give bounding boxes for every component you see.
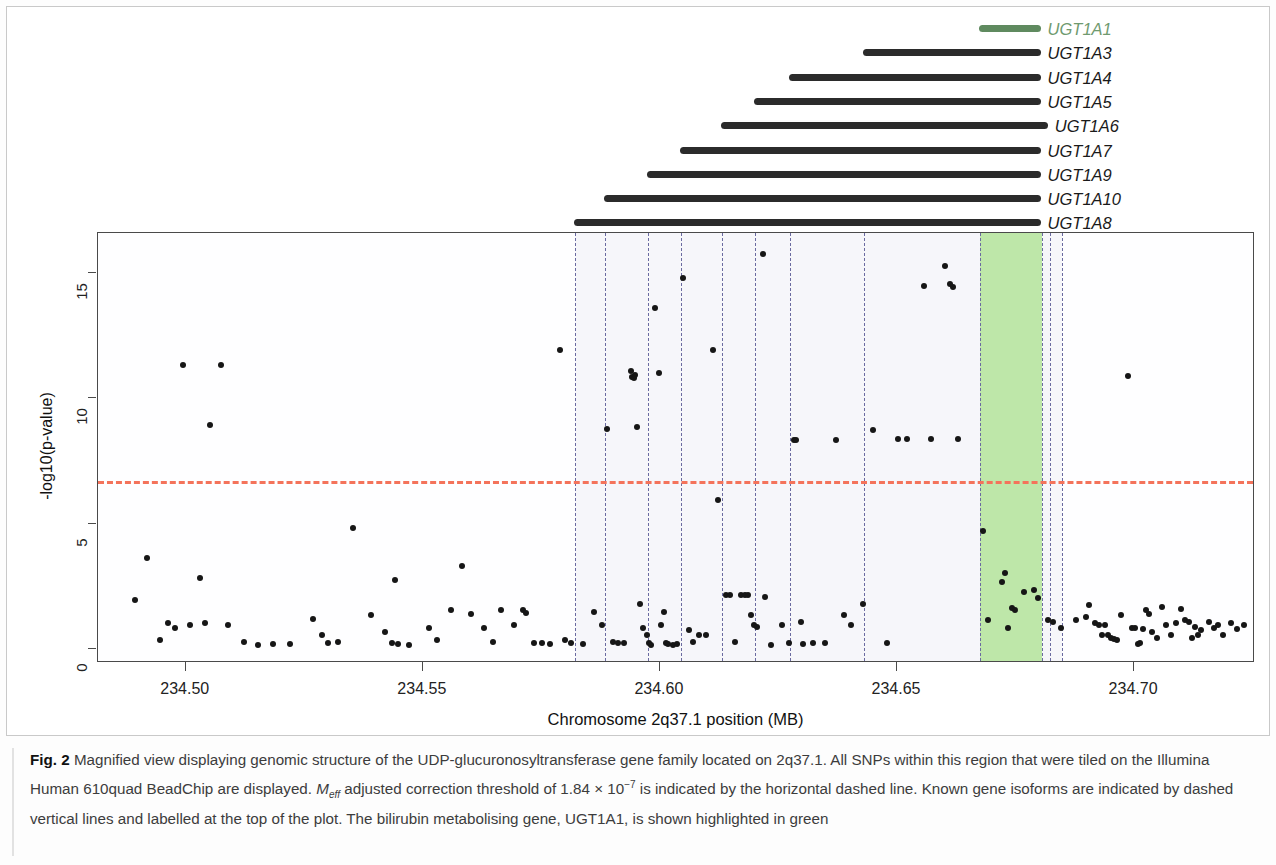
x-axis-label: Chromosome 2q37.1 position (MB): [548, 710, 804, 729]
gene-label-ugt1a3: UGT1A3: [1048, 42, 1112, 64]
snp-point: [531, 640, 537, 646]
gene-bar-ugt1a6: [721, 122, 1048, 129]
meff-symbol: M: [316, 780, 329, 797]
snp-point: [310, 616, 316, 622]
snp-point: [368, 612, 374, 618]
snp-point: [1102, 622, 1108, 628]
gene-track: UGT1A1UGT1A3UGT1A4UGT1A5UGT1A6UGT1A7UGT1…: [0, 0, 1276, 232]
snp-point: [1050, 619, 1056, 625]
snp-point: [1178, 606, 1184, 612]
y-axis-label: -log10(p-value): [38, 361, 56, 531]
snp-point: [1073, 617, 1079, 623]
snp-point: [1186, 619, 1192, 625]
snp-point: [786, 640, 792, 646]
snp-point: [1220, 632, 1226, 638]
snp-point: [745, 592, 751, 598]
gene-boundary-line-2: [648, 233, 649, 661]
gene-row-ugt1a3: UGT1A3: [0, 42, 1276, 64]
gene-label-ugt1a5: UGT1A5: [1048, 91, 1112, 113]
gene-row-ugt1a6: UGT1A6: [0, 115, 1276, 137]
snp-point: [207, 422, 213, 428]
x-tick: [896, 662, 897, 671]
snp-point: [1215, 622, 1221, 628]
gene-row-ugt1a9: UGT1A9: [0, 164, 1276, 186]
gene-label-ugt1a1: UGT1A1: [1048, 18, 1112, 40]
gene-row-ugt1a5: UGT1A5: [0, 91, 1276, 113]
gene-boundary-line-7: [864, 233, 865, 661]
snp-point: [325, 640, 331, 646]
snp-point: [270, 641, 276, 647]
snp-point: [1159, 604, 1165, 610]
gene-label-ugt1a10: UGT1A10: [1048, 188, 1121, 210]
gene-boundary-line-5: [755, 233, 756, 661]
gene-bar-ugt1a10: [604, 195, 1040, 202]
snp-point: [798, 619, 804, 625]
gene-bar-ugt1a3: [863, 49, 1041, 56]
snp-point: [884, 640, 890, 646]
gene-boundary-line-0: [575, 233, 576, 661]
snp-point: [468, 611, 474, 617]
snp-point: [319, 632, 325, 638]
snp-point: [632, 372, 638, 378]
snp-point: [1125, 373, 1131, 379]
gene-boundary-line-3: [681, 233, 682, 661]
snp-point: [1002, 570, 1008, 576]
snp-point: [674, 641, 680, 647]
gene-bar-ugt1a1: [979, 25, 1041, 32]
snp-point: [180, 362, 186, 368]
gene-label-ugt1a7: UGT1A7: [1048, 140, 1112, 162]
gene-bar-ugt1a4: [789, 74, 1040, 81]
snp-point: [557, 347, 563, 353]
snp-point: [426, 625, 432, 631]
manhattan-plot-panel: [97, 232, 1254, 662]
x-tick: [659, 662, 660, 671]
snp-point: [860, 601, 866, 607]
threshold-exponent: −7: [624, 779, 635, 790]
gene-boundary-line-1: [605, 233, 606, 661]
snp-point: [382, 629, 388, 635]
snp-point: [1154, 635, 1160, 641]
snp-point: [197, 575, 203, 581]
snp-point: [539, 640, 545, 646]
gene-label-ugt1a9: UGT1A9: [1048, 164, 1112, 186]
y-tick-label: 15: [73, 272, 90, 312]
snp-point: [1146, 611, 1152, 617]
snp-point: [157, 637, 163, 643]
snp-point: [335, 639, 341, 645]
snp-point: [822, 640, 828, 646]
gene-bar-ugt1a7: [680, 147, 1040, 154]
x-tick-label: 234.60: [634, 680, 683, 698]
snp-point: [848, 622, 854, 628]
snp-point: [661, 609, 667, 615]
figure-root: UGT1A1UGT1A3UGT1A4UGT1A5UGT1A6UGT1A7UGT1…: [0, 0, 1276, 865]
snp-point: [1234, 626, 1240, 632]
snp-point: [895, 436, 901, 442]
gene-boundary-line-6: [790, 233, 791, 661]
snp-point: [1021, 589, 1027, 595]
snp-point: [1012, 607, 1018, 613]
snp-point: [511, 622, 517, 628]
gene-bar-ugt1a5: [754, 98, 1041, 105]
snp-point: [1198, 627, 1204, 633]
snp-point: [459, 563, 465, 569]
y-tick-label: 0: [73, 648, 90, 688]
snp-point: [1083, 614, 1089, 620]
snp-point: [1114, 637, 1120, 643]
x-tick: [1133, 662, 1134, 671]
snp-point: [172, 625, 178, 631]
gene-row-ugt1a4: UGT1A4: [0, 67, 1276, 89]
snp-point: [1241, 622, 1247, 628]
snp-point: [434, 637, 440, 643]
gene-boundary-line-11: [1062, 233, 1063, 661]
snp-point: [241, 639, 247, 645]
snp-point: [999, 579, 1005, 585]
snp-point: [448, 607, 454, 613]
snp-point: [406, 642, 412, 648]
x-tick-label: 234.55: [397, 680, 446, 698]
snp-point: [287, 641, 293, 647]
snp-point: [1228, 620, 1234, 626]
snp-point: [350, 525, 356, 531]
snp-point: [1132, 625, 1138, 631]
snp-point: [1163, 622, 1169, 628]
gene-bar-ugt1a9: [647, 171, 1041, 178]
